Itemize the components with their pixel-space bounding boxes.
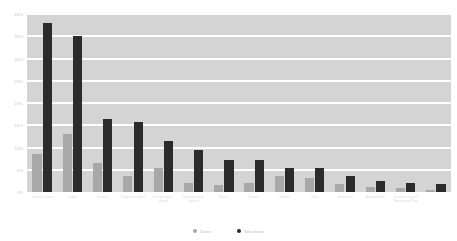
legend-item[interactable]: Non-donor <box>237 229 264 234</box>
bar-donor <box>366 187 375 192</box>
bar-group <box>57 14 87 192</box>
x-axis-tick-label: Emergency & Update <box>178 195 208 204</box>
y-axis-tick-label: 20% <box>14 101 23 106</box>
bar-nondonor <box>406 183 415 192</box>
bar-nondonor <box>285 168 294 192</box>
chart-legend: DonorNon-donor <box>0 224 457 238</box>
grouped-bar-chart: 40%35%30%25%20%15%10%5%0% Unique DonorOr… <box>0 0 457 241</box>
legend-item[interactable]: Donor <box>193 229 211 234</box>
y-axis-tick-label: 15% <box>14 123 23 128</box>
bar-donor <box>305 178 314 192</box>
x-axis-tick-label: Ethics <box>209 195 239 199</box>
bar-group <box>269 14 299 192</box>
y-axis-tick-label: 30% <box>14 56 23 61</box>
y-axis-tick-label: 35% <box>14 34 23 39</box>
x-axis-tick-label: Donations <box>330 195 360 199</box>
y-axis-tick-label: 10% <box>14 145 23 150</box>
x-axis-tick-label: Offer <box>300 195 330 199</box>
bar-nondonor <box>224 160 233 192</box>
bar-donor <box>396 188 405 192</box>
x-axis-tick-label: Grants <box>269 195 299 199</box>
bar-group <box>390 14 420 192</box>
bar-nondonor <box>346 176 355 192</box>
bar-nondonor <box>194 150 203 192</box>
bar-group <box>239 14 269 192</box>
bar-nondonor <box>43 23 52 192</box>
legend-swatch-icon <box>237 229 241 233</box>
y-axis-tick-label: 5% <box>17 167 23 172</box>
bar-group <box>360 14 390 192</box>
bar-group <box>209 14 239 192</box>
bar-nondonor <box>164 141 173 192</box>
x-axis-tick-label: Income Council Monitoring Plan <box>390 195 420 204</box>
x-axis-tick-label: Unique Funders <box>118 195 148 199</box>
legend-label: Donor <box>200 229 211 234</box>
legend-label: Non-donor <box>244 229 264 234</box>
bar-group <box>421 14 451 192</box>
bar-donor <box>335 184 344 192</box>
bar-donor <box>275 176 284 192</box>
x-axis-tick-label: Export <box>239 195 269 199</box>
bar-group <box>330 14 360 192</box>
x-axis-tick-label: Unique Donor <box>27 195 57 199</box>
bar-group <box>300 14 330 192</box>
y-axis: 40%35%30%25%20%15%10%5%0% <box>0 0 27 206</box>
x-axis-labels: Unique DonorOrganBranchUnique FundersDis… <box>27 195 451 225</box>
bar-nondonor <box>315 168 324 192</box>
bar-donor <box>63 134 72 192</box>
bar-donor <box>244 183 253 192</box>
bar-nondonor <box>255 160 264 192</box>
x-axis-tick-label: Branch <box>88 195 118 199</box>
y-axis-tick-label: 40% <box>14 12 23 17</box>
bar-donor <box>123 176 132 192</box>
bar-donor <box>426 190 435 192</box>
bar-group <box>148 14 178 192</box>
x-axis-tick-label: Amendment <box>360 195 390 199</box>
bar-nondonor <box>134 122 143 192</box>
legend-swatch-icon <box>193 229 197 233</box>
x-axis-tick-label: Disciplinary & Board <box>148 195 178 204</box>
bar-nondonor <box>376 181 385 192</box>
bar-nondonor <box>103 119 112 192</box>
y-axis-tick-label: 25% <box>14 78 23 83</box>
bar-donor <box>214 185 223 192</box>
bar-group <box>178 14 208 192</box>
bar-nondonor <box>436 184 445 192</box>
bar-donor <box>93 163 102 192</box>
bar-group <box>118 14 148 192</box>
bar-group <box>27 14 57 192</box>
bar-group <box>88 14 118 192</box>
bar-donor <box>184 183 193 192</box>
bar-donor <box>32 154 41 192</box>
bar-donor <box>154 168 163 192</box>
bars-layer <box>27 14 451 192</box>
y-axis-tick-label: 0% <box>17 190 23 195</box>
bar-nondonor <box>73 36 82 192</box>
x-axis-tick-label: Organ <box>57 195 87 199</box>
